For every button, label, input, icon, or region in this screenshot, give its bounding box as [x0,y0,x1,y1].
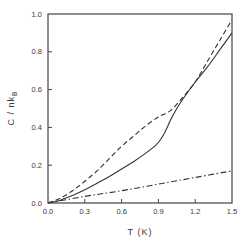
x-axis-ticks: 0.00.30.60.91.21.5 [43,199,237,216]
x-tick-label: 0.3 [80,207,90,216]
plot-frame [48,14,232,203]
y-axis-title-subscript: B [11,91,18,96]
y-tick-label: 1.0 [32,10,42,19]
y-tick-label: 0.4 [32,123,42,132]
series-dash-dot-line [48,171,232,203]
y-axis-title-main: C / nk [6,96,16,126]
y-axis-title: C / nkB [6,91,18,126]
x-tick-label: 0.9 [153,207,163,216]
y-tick-label: 0.6 [32,85,42,94]
series-solid-line [48,33,232,203]
svg-text:C / nkB: C / nkB [6,91,18,126]
y-axis-ticks: 0.00.20.40.60.81.0 [32,10,52,208]
x-tick-label: 1.2 [190,207,200,216]
chart: 0.00.20.40.60.81.0 0.00.30.60.91.21.5 T … [0,0,247,246]
y-tick-label: 0.0 [32,199,42,208]
x-tick-label: 1.5 [227,207,237,216]
plot-series [48,20,232,203]
y-tick-label: 0.2 [32,161,42,170]
x-axis-title: T (K) [128,227,153,237]
y-tick-label: 0.8 [32,47,42,56]
x-tick-label: 0.0 [43,207,53,216]
x-tick-label: 0.6 [116,207,126,216]
